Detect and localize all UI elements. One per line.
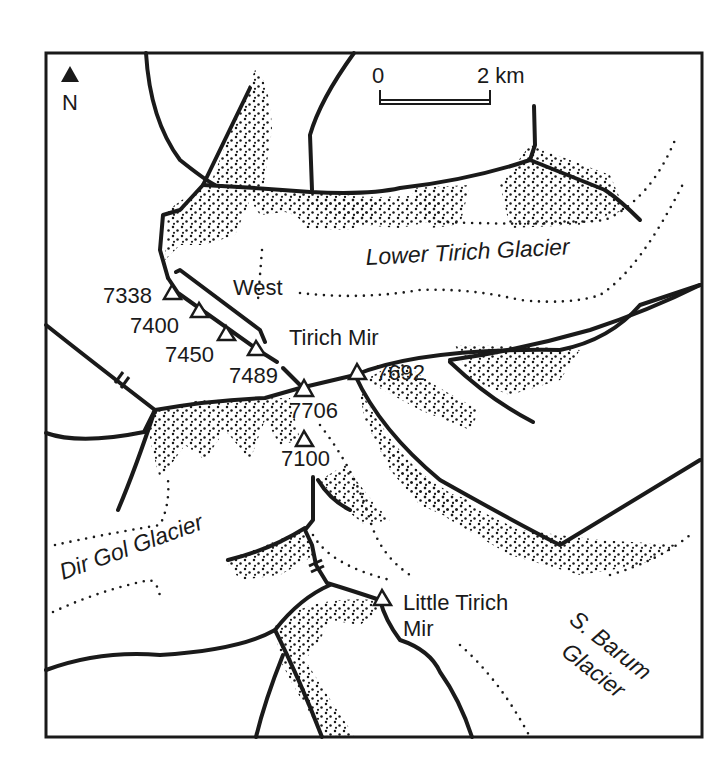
- west-label: West: [233, 275, 283, 300]
- little-tirich-mir-label-2: Mir: [403, 616, 434, 641]
- scale-start-label: 0: [372, 63, 384, 88]
- north-label: N: [62, 90, 78, 115]
- scale-end-label: 2 km: [477, 63, 525, 88]
- tirich-mir-label: Tirich Mir: [289, 325, 379, 350]
- peak-label-7450: 7450: [165, 342, 214, 367]
- peak-label-7489: 7489: [229, 363, 278, 388]
- peak-label-7706: 7706: [289, 398, 338, 423]
- peak-label-7100: 7100: [281, 446, 330, 471]
- tirich-mir-map: N 0 2 km 7338 7400 7450 7489 7706 7692 7…: [0, 0, 724, 767]
- glacier-label-lower-tirich: Lower Tirich Glacier: [365, 233, 572, 270]
- scale-bar: 0 2 km: [372, 63, 525, 104]
- peak-label-7400: 7400: [130, 313, 179, 338]
- north-arrow: N: [61, 66, 79, 115]
- little-tirich-mir-label-1: Little Tirich: [403, 590, 508, 615]
- peak-label-7338: 7338: [103, 283, 152, 308]
- north-arrow-icon: [61, 66, 79, 82]
- peak-label-7692: 7692: [376, 360, 425, 385]
- glacier-label-dir-gol: Dir Gol Glacier: [56, 508, 208, 584]
